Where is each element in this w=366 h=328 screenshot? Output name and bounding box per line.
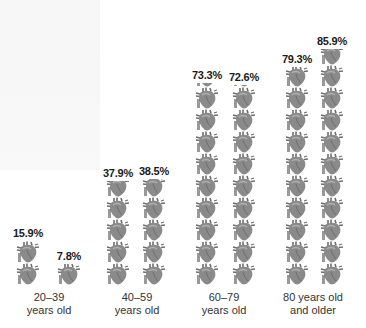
column-80-plus-a: 79.3% bbox=[283, 53, 311, 285]
anatomical-heart-icon bbox=[231, 263, 257, 285]
column-20-39-b: 7.8% bbox=[55, 250, 83, 285]
anatomical-heart-icon bbox=[194, 219, 220, 241]
group-label-20-39: 20–39 years old bbox=[9, 291, 89, 317]
anatomical-heart-icon bbox=[284, 219, 310, 241]
anatomical-heart-icon bbox=[319, 87, 345, 109]
heart-stack bbox=[15, 241, 41, 285]
anatomical-heart-icon bbox=[15, 263, 41, 285]
anatomical-heart-icon bbox=[141, 179, 167, 197]
anatomical-heart-icon bbox=[56, 264, 82, 285]
pictogram-chart: 15.9% 7.8% 37.9% 38.5% 73.3% 72.6% 79.3%… bbox=[0, 0, 366, 328]
percent-label: 79.3% bbox=[282, 53, 312, 65]
anatomical-heart-icon bbox=[319, 197, 345, 219]
anatomical-heart-icon bbox=[141, 241, 167, 263]
anatomical-heart-icon bbox=[284, 175, 310, 197]
anatomical-heart-icon bbox=[231, 197, 257, 219]
group-label-line1: 20–39 bbox=[9, 291, 89, 304]
heart-stack bbox=[231, 85, 257, 285]
anatomical-heart-icon bbox=[194, 87, 220, 109]
heart-stack bbox=[105, 181, 131, 285]
anatomical-heart-icon bbox=[319, 263, 345, 285]
heart-stack bbox=[56, 264, 82, 285]
heart-stack bbox=[319, 49, 345, 285]
percent-label: 37.9% bbox=[103, 167, 133, 179]
anatomical-heart-icon bbox=[231, 87, 257, 109]
anatomical-heart-icon bbox=[319, 109, 345, 131]
column-60-79-a: 73.3% bbox=[193, 69, 221, 285]
group-label-line2: and older bbox=[273, 304, 353, 317]
anatomical-heart-icon bbox=[231, 241, 257, 263]
percent-label: 85.9% bbox=[317, 35, 347, 47]
column-60-79-b: 72.6% bbox=[230, 71, 258, 285]
anatomical-heart-icon bbox=[284, 109, 310, 131]
heart-stack bbox=[194, 83, 220, 285]
anatomical-heart-icon bbox=[231, 175, 257, 197]
percent-label: 7.8% bbox=[57, 250, 81, 262]
anatomical-heart-icon bbox=[194, 197, 220, 219]
group-label-line1: 40–59 bbox=[97, 291, 177, 304]
anatomical-heart-icon bbox=[284, 87, 310, 109]
anatomical-heart-icon bbox=[319, 241, 345, 263]
column-20-39-a: 15.9% bbox=[14, 227, 42, 285]
anatomical-heart-icon bbox=[194, 175, 220, 197]
anatomical-heart-icon bbox=[284, 197, 310, 219]
anatomical-heart-icon bbox=[231, 109, 257, 131]
anatomical-heart-icon bbox=[319, 49, 345, 65]
percent-label: 72.6% bbox=[229, 71, 259, 83]
anatomical-heart-icon bbox=[194, 109, 220, 131]
anatomical-heart-icon bbox=[284, 241, 310, 263]
anatomical-heart-icon bbox=[141, 219, 167, 241]
group-label-40-59: 40–59 years old bbox=[97, 291, 177, 317]
anatomical-heart-icon bbox=[319, 65, 345, 87]
anatomical-heart-icon bbox=[105, 263, 131, 285]
anatomical-heart-icon bbox=[231, 219, 257, 241]
anatomical-heart-icon bbox=[194, 263, 220, 285]
anatomical-heart-icon bbox=[231, 153, 257, 175]
anatomical-heart-icon bbox=[284, 67, 310, 87]
column-40-59-a: 37.9% bbox=[104, 167, 132, 285]
anatomical-heart-icon bbox=[105, 219, 131, 241]
percent-label: 15.9% bbox=[13, 227, 43, 239]
heart-stack bbox=[141, 179, 167, 285]
group-label-line2: years old bbox=[184, 304, 264, 317]
anatomical-heart-icon bbox=[231, 131, 257, 153]
column-40-59-b: 38.5% bbox=[140, 165, 168, 285]
anatomical-heart-icon bbox=[15, 241, 41, 263]
group-label-line2: years old bbox=[9, 304, 89, 317]
group-label-60-79: 60–79 years old bbox=[184, 291, 264, 317]
anatomical-heart-icon bbox=[319, 175, 345, 197]
anatomical-heart-icon bbox=[319, 153, 345, 175]
anatomical-heart-icon bbox=[141, 263, 167, 285]
anatomical-heart-icon bbox=[284, 263, 310, 285]
anatomical-heart-icon bbox=[105, 241, 131, 263]
anatomical-heart-icon bbox=[194, 153, 220, 175]
anatomical-heart-icon bbox=[141, 197, 167, 219]
anatomical-heart-icon bbox=[194, 241, 220, 263]
group-label-line1: 80 years old bbox=[273, 291, 353, 304]
group-label-line1: 60–79 bbox=[184, 291, 264, 304]
anatomical-heart-icon bbox=[319, 219, 345, 241]
anatomical-heart-icon bbox=[284, 153, 310, 175]
anatomical-heart-icon bbox=[105, 181, 131, 197]
column-80-plus-b: 85.9% bbox=[318, 35, 346, 285]
anatomical-heart-icon bbox=[194, 131, 220, 153]
anatomical-heart-icon bbox=[105, 197, 131, 219]
group-label-80-plus: 80 years old and older bbox=[273, 291, 353, 317]
percent-label: 38.5% bbox=[139, 165, 169, 177]
percent-label: 73.3% bbox=[192, 69, 222, 81]
group-label-line2: years old bbox=[97, 304, 177, 317]
anatomical-heart-icon bbox=[319, 131, 345, 153]
anatomical-heart-icon bbox=[284, 131, 310, 153]
heart-stack bbox=[284, 67, 310, 285]
